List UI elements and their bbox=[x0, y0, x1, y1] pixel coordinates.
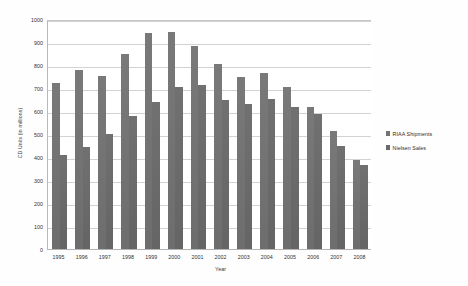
bar-1997-nielsen bbox=[106, 134, 114, 249]
legend-item-nielsen-sales[interactable]: Nielsen Sales bbox=[386, 144, 464, 151]
bar-1999-riaa bbox=[145, 33, 153, 249]
bar-group bbox=[279, 21, 302, 249]
bar-1995-nielsen bbox=[60, 155, 68, 249]
y-axis-tick-label: 1000 bbox=[21, 17, 43, 23]
bar-group bbox=[326, 21, 349, 249]
bar-1999-nielsen bbox=[152, 102, 160, 249]
bar-2001-nielsen bbox=[198, 85, 206, 249]
bar-group bbox=[303, 21, 326, 249]
y-axis-tick-label: 300 bbox=[21, 178, 43, 184]
bar-group bbox=[210, 21, 233, 249]
y-axis-tick-label: 600 bbox=[21, 109, 43, 115]
bar-2005-riaa bbox=[283, 87, 291, 249]
x-axis-tick-label: 2005 bbox=[277, 254, 303, 260]
bar-2000-riaa bbox=[168, 32, 176, 249]
y-axis-tick-label: 700 bbox=[21, 86, 43, 92]
legend-label: Nielsen Sales bbox=[393, 145, 426, 151]
bar-2006-riaa bbox=[307, 107, 315, 249]
bar-2003-riaa bbox=[237, 77, 245, 249]
y-axis-tick-label: 0 bbox=[21, 247, 43, 253]
x-axis-tick-label: 2001 bbox=[184, 254, 210, 260]
bar-group bbox=[187, 21, 210, 249]
bar-group bbox=[94, 21, 117, 249]
legend-label: RIAA Shipments bbox=[393, 131, 433, 137]
bar-2002-nielsen bbox=[222, 100, 230, 249]
y-axis-tick-label: 800 bbox=[21, 63, 43, 69]
bar-group bbox=[48, 21, 71, 249]
bar-2006-nielsen bbox=[314, 114, 322, 249]
bar-2007-riaa bbox=[330, 131, 338, 249]
bar-group bbox=[349, 21, 372, 249]
x-axis-tick-label: 1995 bbox=[46, 254, 72, 260]
bar-1998-nielsen bbox=[129, 116, 137, 249]
bar-group bbox=[256, 21, 279, 249]
legend-swatch-icon bbox=[386, 145, 390, 149]
bar-1996-riaa bbox=[75, 70, 83, 249]
bar-group bbox=[164, 21, 187, 249]
bar-2008-riaa bbox=[353, 160, 361, 249]
y-axis-tick-label: 100 bbox=[21, 224, 43, 230]
x-axis-tick-label: 1996 bbox=[69, 254, 95, 260]
bar-1997-riaa bbox=[98, 76, 106, 249]
chart-legend: RIAA ShipmentsNielsen Sales bbox=[386, 130, 464, 158]
x-axis-tick-label: 2008 bbox=[346, 254, 372, 260]
x-axis-tick-label: 2007 bbox=[323, 254, 349, 260]
x-axis-tick-label: 1997 bbox=[92, 254, 118, 260]
x-axis-tick-label: 2003 bbox=[231, 254, 257, 260]
bar-2003-nielsen bbox=[245, 104, 253, 249]
x-axis-tick-label: 2004 bbox=[254, 254, 280, 260]
y-axis-tick-label: 200 bbox=[21, 201, 43, 207]
bar-2000-nielsen bbox=[175, 87, 183, 249]
y-axis-tick-label: 900 bbox=[21, 40, 43, 46]
bar-1996-nielsen bbox=[83, 147, 91, 249]
bar-group bbox=[71, 21, 94, 249]
bar-1995-riaa bbox=[52, 83, 60, 249]
x-axis-tick-label: 2006 bbox=[300, 254, 326, 260]
x-axis-title: Year bbox=[201, 266, 241, 272]
bar-group bbox=[117, 21, 140, 249]
x-axis-tick-label: 1999 bbox=[138, 254, 164, 260]
legend-item-riaa-shipments[interactable]: RIAA Shipments bbox=[386, 130, 464, 137]
bar-2005-nielsen bbox=[291, 107, 299, 249]
bars-layer bbox=[48, 21, 371, 249]
x-axis-tick-label: 2002 bbox=[208, 254, 234, 260]
bar-group bbox=[141, 21, 164, 249]
y-axis-tick-label: 500 bbox=[21, 132, 43, 138]
plot-area bbox=[47, 20, 371, 250]
bar-2002-riaa bbox=[214, 64, 222, 249]
bar-2007-nielsen bbox=[337, 146, 345, 250]
y-axis-tick-label: 400 bbox=[21, 155, 43, 161]
legend-swatch-icon bbox=[386, 131, 390, 135]
bar-2004-riaa bbox=[260, 73, 268, 249]
bar-2001-riaa bbox=[191, 46, 199, 249]
bar-2008-nielsen bbox=[360, 165, 368, 249]
x-axis-tick-label: 2000 bbox=[161, 254, 187, 260]
bar-chart: CD Units (in millions) 10009008007006005… bbox=[0, 0, 468, 286]
x-axis-title-text: Year bbox=[215, 266, 226, 272]
bar-group bbox=[233, 21, 256, 249]
bar-1998-riaa bbox=[121, 54, 129, 249]
bar-2004-nielsen bbox=[268, 99, 276, 249]
x-axis-tick-label: 1998 bbox=[115, 254, 141, 260]
